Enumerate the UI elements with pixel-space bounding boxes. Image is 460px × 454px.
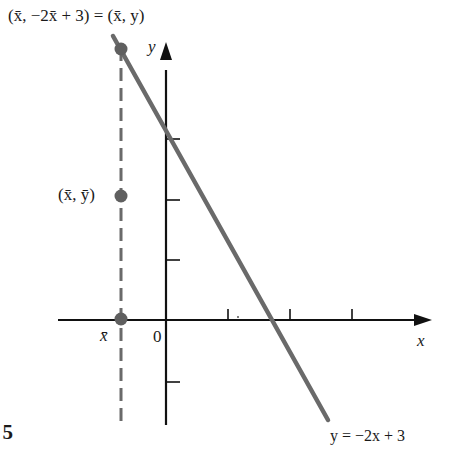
figure-caption: e 5 <box>0 420 13 445</box>
y-ticks <box>166 139 180 382</box>
mean-point <box>115 190 128 203</box>
line-equation-label: y = −2x + 3 <box>330 427 405 445</box>
x-axis-arrow-icon <box>414 314 432 326</box>
y-axis-label: y <box>148 37 156 57</box>
diagram-canvas <box>0 0 460 454</box>
regression-diagram: (x̄, −2x̄ + 3) = (x̄, y) y (x̄, ȳ) 0 x̄ … <box>0 0 460 454</box>
mean-point-label: (x̄, ȳ) <box>58 185 95 205</box>
xbar-label: x̄ <box>100 326 108 346</box>
regression-line <box>113 36 328 420</box>
artifact-dot <box>237 316 239 318</box>
xbar-point <box>115 313 128 326</box>
point-on-line <box>115 43 128 56</box>
top-equation-label: (x̄, −2x̄ + 3) = (x̄, y) <box>8 6 144 26</box>
x-ticks <box>228 309 352 320</box>
y-axis-arrow-icon <box>160 42 172 60</box>
origin-label: 0 <box>153 327 162 347</box>
x-axis-label: x <box>417 331 425 351</box>
